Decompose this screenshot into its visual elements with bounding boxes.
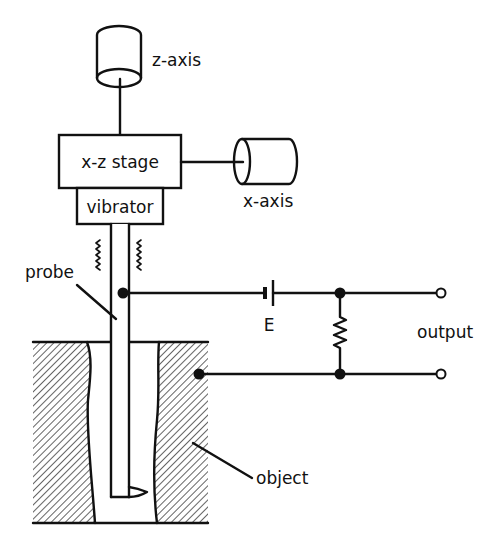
object-label: object	[256, 468, 309, 488]
resistor-icon	[334, 293, 346, 374]
xz-stage-label: x-z stage	[81, 152, 159, 172]
output-terminal-top	[437, 289, 446, 298]
vibration-wave-left-icon	[96, 240, 100, 270]
z-axis-actuator-icon	[97, 26, 141, 87]
x-axis-label: x-axis	[243, 191, 293, 211]
battery-label: E	[264, 315, 275, 335]
diagram-canvas: z-axis x-z stage x-axis vibrator probe	[0, 0, 497, 552]
vibration-wave-right-icon	[137, 240, 141, 270]
probe-label: probe	[25, 262, 74, 282]
output-terminal-bottom	[437, 370, 446, 379]
output-label: output	[417, 322, 473, 342]
junction-bottom-dot	[335, 369, 346, 380]
z-axis-label: z-axis	[152, 50, 201, 70]
vibrator-label: vibrator	[86, 197, 153, 217]
probe-rod	[111, 224, 147, 497]
